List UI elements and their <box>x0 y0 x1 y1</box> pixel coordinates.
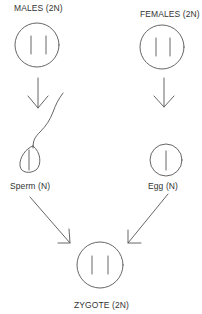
zygote-cell <box>77 242 123 288</box>
male-cell <box>15 23 59 67</box>
arrow-females-to-egg <box>154 78 174 107</box>
female-cell <box>140 25 184 69</box>
sperm-tail <box>33 93 63 148</box>
arrow-sperm-to-zygote <box>30 197 70 243</box>
females-label: FEMALES (2N) <box>140 9 200 19</box>
males-label: MALES (2N) <box>14 3 63 13</box>
male-cell-membrane <box>15 23 59 67</box>
egg-cell <box>150 144 182 176</box>
egg-label: Egg (N) <box>148 181 178 191</box>
sperm-head <box>20 146 40 172</box>
arrow-males-to-sperm <box>28 78 48 108</box>
zygote-label: ZYGOTE (2N) <box>74 300 129 310</box>
arrow-egg-to-zygote <box>128 194 168 243</box>
zygote-membrane <box>77 242 123 288</box>
female-cell-membrane <box>140 25 184 69</box>
diagram-canvas <box>0 0 202 314</box>
sperm-label: Sperm (N) <box>10 181 50 191</box>
sperm-cell <box>20 93 63 172</box>
